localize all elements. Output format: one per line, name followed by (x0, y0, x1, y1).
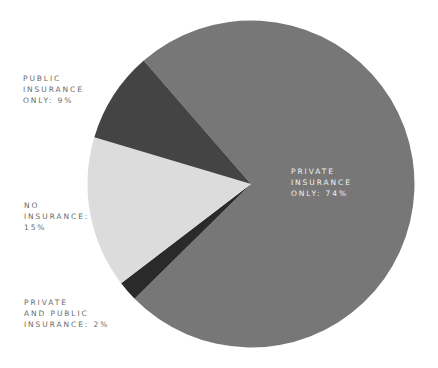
label-line: AND PUBLIC (24, 308, 109, 319)
label-line: INSURANCE: 2% (24, 319, 109, 330)
label-no-insurance: NO INSURANCE: 15% (24, 200, 89, 233)
label-line: INSURANCE (291, 177, 352, 188)
label-line: PUBLIC (23, 73, 84, 84)
label-line: INSURANCE (23, 84, 84, 95)
label-private-and-public-insurance: PRIVATE AND PUBLIC INSURANCE: 2% (24, 297, 109, 330)
label-private-insurance-only: PRIVATE INSURANCE ONLY: 74% (291, 166, 352, 199)
label-public-insurance-only: PUBLIC INSURANCE ONLY: 9% (23, 73, 84, 106)
label-line: PRIVATE (24, 297, 109, 308)
label-line: NO (24, 200, 89, 211)
label-line: PRIVATE (291, 166, 352, 177)
label-line: 15% (24, 222, 89, 233)
pie-slices (87, 20, 414, 347)
label-line: ONLY: 74% (291, 188, 352, 199)
label-line: ONLY: 9% (23, 95, 84, 106)
label-line: INSURANCE: (24, 211, 89, 222)
